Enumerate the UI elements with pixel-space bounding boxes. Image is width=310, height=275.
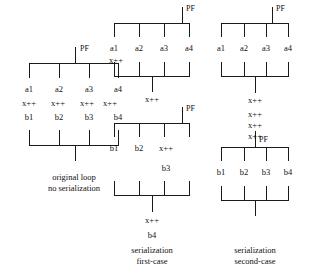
second-label-b3: b3 <box>85 113 94 122</box>
branch-label-b2: b2 <box>240 168 249 177</box>
fork-label-pf: PF <box>80 44 89 53</box>
fork-label-pf-top: PF <box>276 4 285 13</box>
branch-label-a3: a3 <box>85 85 93 94</box>
branch-label-b2: b2 <box>135 144 144 153</box>
branch-label-b3: b3 <box>262 168 271 177</box>
increment-stack-1: x++ <box>248 110 262 119</box>
branch-label-a1: a1 <box>217 44 225 53</box>
fork-label-pf-top: PF <box>186 4 195 13</box>
branch-label-a3: a3 <box>262 44 270 53</box>
figure-canvas: PF a1 a2 a3 a4 x++ x++ x++ x++ b1 b2 b3 … <box>0 0 310 275</box>
branch-label-a1: a1 <box>25 85 33 94</box>
increment-label-1: x++ <box>22 99 36 108</box>
branch-label-increment-mid: x++ <box>159 144 173 153</box>
increment-label-3: x++ <box>80 99 94 108</box>
diagram-serialization-second-case: PF a1 a2 a3 a4 x++ x++ x++ x++ PF b1 b2 … <box>213 0 310 275</box>
branch-label-a2: a2 <box>135 44 143 53</box>
caption-line-1: original loop <box>48 172 100 183</box>
join-increment-label-mid: x++ <box>145 216 159 225</box>
increment-label-mid-b3: b3 <box>162 164 171 173</box>
increment-stack-2: x++ <box>248 121 262 130</box>
fork-label-pf-bottom: PF <box>259 135 268 144</box>
caption-second-case: serialization second-case <box>234 245 276 266</box>
join-increment-label: x++ <box>248 96 262 105</box>
caption-first-case: serialization first-case <box>131 245 173 266</box>
join-increment-label-top: x++ <box>145 95 159 104</box>
diagram-first-case-lines <box>105 0 210 275</box>
caption-original-loop: original loop no serialization <box>48 172 100 193</box>
increment-label-2: x++ <box>51 99 65 108</box>
branch-label-a4: a4 <box>185 44 193 53</box>
caption-line-2: first-case <box>131 256 173 267</box>
branch-label-a2: a2 <box>240 44 248 53</box>
branch-label-b1: b1 <box>217 168 226 177</box>
tail-label-b4: b4 <box>148 231 157 240</box>
fork-label-pf-mid: PF <box>186 104 195 113</box>
branch-label-a3: a3 <box>160 44 168 53</box>
branch-label-b1: b1 <box>110 144 119 153</box>
caption-line-1: serialization <box>234 245 276 256</box>
branch-label-b4: b4 <box>284 168 293 177</box>
caption-line-1: serialization <box>131 245 173 256</box>
increment-label-top: x++ <box>109 56 123 65</box>
caption-line-2: second-case <box>234 256 276 267</box>
branch-label-a4: a4 <box>284 44 292 53</box>
second-label-b2: b2 <box>55 113 64 122</box>
branch-label-a1: a1 <box>110 44 118 53</box>
second-label-b1: b1 <box>25 113 34 122</box>
branch-label-a2: a2 <box>55 85 63 94</box>
diagram-serialization-first-case: PF a1 a2 a3 a4 x++ x++ PF b1 b2 x++ b3 x… <box>105 0 210 275</box>
caption-line-2: no serialization <box>48 183 100 194</box>
